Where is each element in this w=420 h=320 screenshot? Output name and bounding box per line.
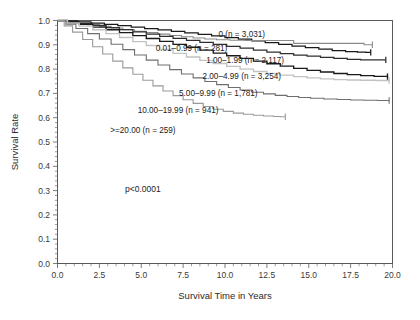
x-axis-title: Survival Time in Years (178, 290, 272, 301)
series-label: 10.00–19.99 (n = 941) (138, 106, 219, 115)
series-label: 0 (n = 3,031) (218, 30, 265, 39)
series-label: 2.00–4.99 (n = 3,254) (202, 72, 281, 81)
y-tick-label: 1.0 (38, 16, 50, 26)
y-tick-label: 0.0 (38, 259, 50, 269)
y-tick-label: 0.7 (38, 88, 50, 98)
x-tick-label: 20.0 (384, 270, 401, 280)
y-tick-label: 0.8 (38, 64, 50, 74)
x-tick-label: 12.5 (259, 270, 276, 280)
survival-chart: 0.02.55.07.510.012.515.017.520.0 0.00.10… (0, 0, 420, 320)
x-tick-label: 5.0 (135, 270, 147, 280)
x-tick-label: 0.0 (52, 270, 64, 280)
x-tick-label: 7.5 (177, 270, 189, 280)
series-label: 0.01–0.99 (n = 281) (156, 44, 228, 53)
x-axis-ticks (58, 264, 393, 269)
p-value-annotation: p<0.0001 (125, 184, 161, 194)
x-tick-label: 10.0 (217, 270, 234, 280)
series-label: 5.00–9.99 (n = 1,781) (179, 89, 258, 98)
y-tick-label: 0.1 (38, 234, 50, 244)
y-tick-label: 0.4 (38, 161, 50, 171)
y-tick-label: 0.9 (38, 40, 50, 50)
y-tick-label: 0.3 (38, 186, 50, 196)
y-tick-label: 0.6 (38, 113, 50, 123)
y-axis-title: Survival Rate (9, 114, 20, 171)
kaplan-meier-plot: 0.02.55.07.510.012.515.017.520.0 0.00.10… (0, 0, 420, 320)
y-axis-tick-labels: 0.00.10.20.30.40.50.60.70.80.91.0 (38, 16, 50, 269)
series-label: >=20.00 (n = 259) (110, 126, 176, 135)
y-tick-label: 0.5 (38, 137, 50, 147)
y-tick-label: 0.2 (38, 210, 50, 220)
x-tick-label: 2.5 (93, 270, 105, 280)
x-tick-label: 17.5 (342, 270, 359, 280)
y-axis-ticks (53, 21, 58, 264)
x-tick-label: 15.0 (300, 270, 317, 280)
series-inline-labels: 0 (n = 3,031)0.01–0.99 (n = 281)1.00–1.9… (110, 30, 284, 135)
x-axis-tick-labels: 0.02.55.07.510.012.515.017.520.0 (52, 270, 401, 280)
series-label: 1.00–1.99 (n = 2,117) (206, 56, 284, 65)
